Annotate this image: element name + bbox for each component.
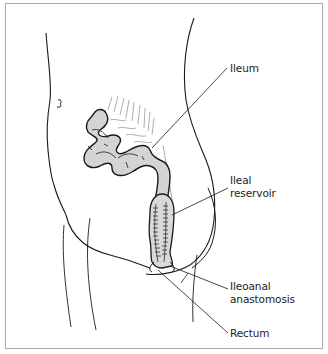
label-ileoanal-anastomosis: Ileoanal anastomosis xyxy=(230,280,295,306)
label-ileoanal-anastomosis-line2: anastomosis xyxy=(230,293,295,306)
leader-ileoanal-anastomosis xyxy=(170,266,228,289)
ileum-loops xyxy=(84,109,170,205)
label-ileum: Ileum xyxy=(230,62,259,75)
label-rectum-text: Rectum xyxy=(230,327,269,339)
buttock-crease xyxy=(181,273,188,283)
navel-mark xyxy=(57,100,61,107)
ileal-reservoir xyxy=(149,194,174,268)
label-ileal-reservoir-line1: Ileal xyxy=(230,174,276,187)
label-ileal-reservoir: Ileal reservoir xyxy=(230,174,276,200)
leader-ileum xyxy=(152,68,227,148)
thigh-line-left xyxy=(63,225,71,327)
leader-rectum xyxy=(158,270,228,333)
label-ileoanal-anastomosis-line1: Ileoanal xyxy=(230,280,295,293)
leader-ileal-reservoir xyxy=(172,188,228,215)
thigh-line-middle xyxy=(88,218,96,330)
label-rectum: Rectum xyxy=(230,327,269,340)
label-ileum-text: Ileum xyxy=(230,62,259,74)
label-ileal-reservoir-line2: reservoir xyxy=(230,187,276,200)
